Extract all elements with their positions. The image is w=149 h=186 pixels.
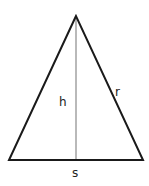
slant-label: r [115,86,120,98]
triangle-diagram: h r s [0,0,149,186]
triangle-svg [0,0,149,186]
base-label: s [72,167,78,179]
height-label: h [59,96,67,108]
